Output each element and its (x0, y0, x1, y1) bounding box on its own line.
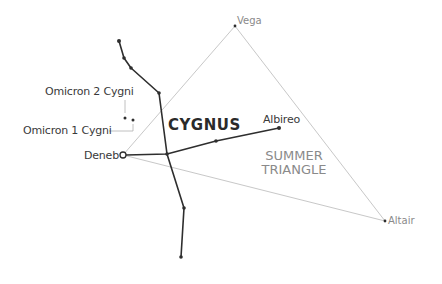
summer-triangle-label: SUMMER TRIANGLE (252, 149, 336, 177)
summer-triangle-line1: SUMMER (252, 149, 336, 163)
star-dot (214, 139, 218, 143)
summer-triangle-line2: TRIANGLE (252, 163, 336, 177)
cygnus-star-map (0, 0, 442, 284)
star-dot (129, 66, 133, 70)
label-deneb: Deneb (84, 150, 119, 161)
star-dot-altair (384, 220, 387, 223)
star-dot (122, 56, 126, 60)
star-dot-albireo (277, 126, 281, 130)
star-dot-vega (234, 25, 237, 28)
label-altair: Altair (388, 216, 415, 226)
omicron1-leader (109, 124, 133, 131)
triangle-edge-vega-altair (235, 26, 385, 221)
star-dot (157, 91, 161, 95)
star-dot-sadr (165, 152, 169, 156)
label-omicron1-cygni: Omicron 1 Cygni (23, 125, 112, 136)
label-omicron2-cygni: Omicron 2 Cygni (45, 86, 134, 97)
label-vega: Vega (237, 16, 262, 26)
star-dot-omicron2 (124, 117, 127, 120)
label-albireo: Albireo (263, 114, 300, 125)
star-dot-omicron1 (132, 119, 135, 122)
star-dot (182, 206, 186, 210)
star-open-circle-deneb (120, 152, 126, 158)
omicron-leader-lines (109, 100, 133, 131)
star-dot (117, 39, 121, 43)
star-dot (179, 255, 183, 259)
cygnus-stars (117, 25, 386, 259)
triangle-edge-deneb-vega (123, 26, 235, 155)
constellation-title: CYGNUS (168, 118, 241, 133)
